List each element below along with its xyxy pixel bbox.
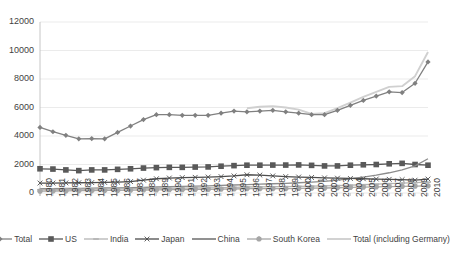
x-tick-2005: 2005	[367, 178, 377, 197]
x-tick-1995: 1995	[238, 178, 248, 197]
x-tick-1993: 1993	[212, 178, 222, 197]
legend-label: Total	[14, 235, 32, 244]
x-tick-1983: 1983	[83, 178, 93, 197]
legend-label: Total (including Germany)	[353, 235, 450, 244]
x-tick-1992: 1992	[199, 178, 209, 197]
legend-item-china[interactable]: China	[191, 234, 240, 244]
x-tick-2006: 2006	[380, 178, 390, 197]
x-tick-1994: 1994	[225, 178, 235, 197]
x-tick-1998: 1998	[277, 178, 287, 197]
series-us	[37, 161, 431, 174]
x-tick-1996: 1996	[251, 178, 261, 197]
x-tick-1987: 1987	[135, 178, 145, 197]
legend-item-south-korea[interactable]: South Korea	[246, 234, 320, 244]
x-tick-2008: 2008	[406, 178, 416, 197]
x-tick-1982: 1982	[70, 178, 80, 197]
legend-item-total[interactable]: Total	[0, 234, 32, 244]
legend-item-india[interactable]: India	[83, 234, 128, 244]
chart-legend: TotalUSIndiaJapanChinaSouth KoreaTotal (…	[0, 230, 437, 248]
legend-label: US	[65, 235, 77, 244]
series-total	[37, 59, 430, 141]
x-tick-2001: 2001	[316, 178, 326, 197]
x-tick-2009: 2009	[419, 178, 429, 197]
legend-swatch-none-icon	[191, 234, 217, 244]
x-tick-1985: 1985	[109, 178, 119, 197]
y-tick-4000: 4000	[0, 130, 34, 140]
legend-item-japan[interactable]: Japan	[134, 234, 184, 244]
legend-swatch-none-icon	[326, 234, 352, 244]
x-tick-1991: 1991	[186, 178, 196, 197]
x-tick-2000: 2000	[303, 178, 313, 197]
legend-label: Japan	[161, 235, 184, 244]
x-tick-1986: 1986	[122, 178, 132, 197]
legend-swatch-dash-icon	[83, 234, 109, 244]
legend-swatch-square-icon	[38, 234, 64, 244]
y-tick-10000: 10000	[0, 45, 34, 55]
legend-label: India	[110, 235, 128, 244]
x-tick-1981: 1981	[57, 178, 67, 197]
x-tick-1999: 1999	[290, 178, 300, 197]
x-tick-2004: 2004	[354, 178, 364, 197]
x-tick-2007: 2007	[393, 178, 403, 197]
legend-swatch-diamond-icon	[0, 234, 13, 244]
x-tick-1984: 1984	[96, 178, 106, 197]
legend-item-total-including-germany[interactable]: Total (including Germany)	[326, 234, 450, 244]
legend-item-us[interactable]: US	[38, 234, 77, 244]
y-tick-2000: 2000	[0, 159, 34, 169]
x-tick-1988: 1988	[147, 178, 157, 197]
x-tick-1990: 1990	[173, 178, 183, 197]
x-tick-2003: 2003	[341, 178, 351, 197]
x-tick-2010: 2010	[432, 178, 442, 197]
y-tick-0: 0	[0, 187, 34, 197]
y-tick-12000: 12000	[0, 16, 34, 26]
x-tick-1989: 1989	[160, 178, 170, 197]
series-total-including-germany	[247, 52, 428, 114]
x-tick-2002: 2002	[329, 178, 339, 197]
x-tick-1997: 1997	[264, 178, 274, 197]
legend-swatch-heptagon-icon	[246, 234, 272, 244]
y-tick-6000: 6000	[0, 102, 34, 112]
data-series-layer	[37, 52, 431, 194]
y-tick-8000: 8000	[0, 73, 34, 83]
legend-swatch-x-icon	[134, 234, 160, 244]
x-tick-1980: 1980	[44, 178, 54, 197]
legend-label: China	[218, 235, 240, 244]
legend-label: South Korea	[273, 235, 320, 244]
